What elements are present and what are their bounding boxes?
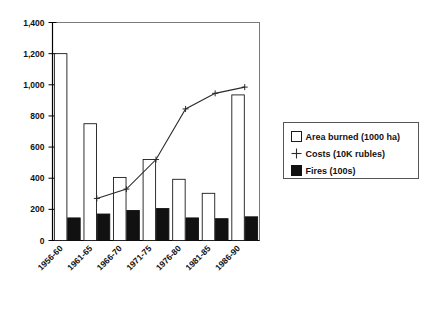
bar-area-burned [173,179,186,240]
y-axis-tick-label: 600 [30,142,44,152]
bar-area-burned [114,177,127,240]
bar-fires [68,218,81,241]
white-square-icon [292,132,302,142]
chart-figure: 02004006008001,0001,2001,400 1956-601961… [0,0,429,310]
fire-statistics-chart: 02004006008001,0001,2001,400 1956-601961… [0,0,429,310]
bar-area-burned [232,95,245,241]
y-axis-tick-label: 0 [40,236,45,246]
legend-item-label: Area burned (1000 ha) [306,132,401,142]
y-axis-tick-label: 400 [30,173,44,183]
bar-area-burned [202,193,215,240]
bar-area-burned [143,160,156,241]
legend-item: Area burned (1000 ha) [292,132,401,143]
bar-fires [186,218,199,241]
y-axis-tick-label: 800 [30,111,44,121]
y-axis-tick-label: 200 [30,204,44,214]
y-axis-tick-label: 1,200 [23,49,45,59]
legend-item-label: Fires (100s) [306,166,356,176]
bar-fires [97,214,110,240]
legend-item: Fires (100s) [292,166,356,177]
bar-fires [127,210,140,240]
legend-item-label: Costs (10K rubles) [306,149,386,159]
bar-area-burned [54,54,67,241]
bar-fires [245,217,257,241]
y-axis-tick-label: 1,000 [23,80,45,90]
bar-fires [216,219,229,241]
bar-area-burned [84,124,97,241]
y-axis-tick-label: 1,400 [23,18,45,28]
legend-item: Costs (10K rubles) [292,149,386,160]
black-square-icon [292,166,302,176]
chart-legend: Area burned (1000 ha)Costs (10K rubles)F… [284,123,419,179]
bar-fires [156,209,169,241]
